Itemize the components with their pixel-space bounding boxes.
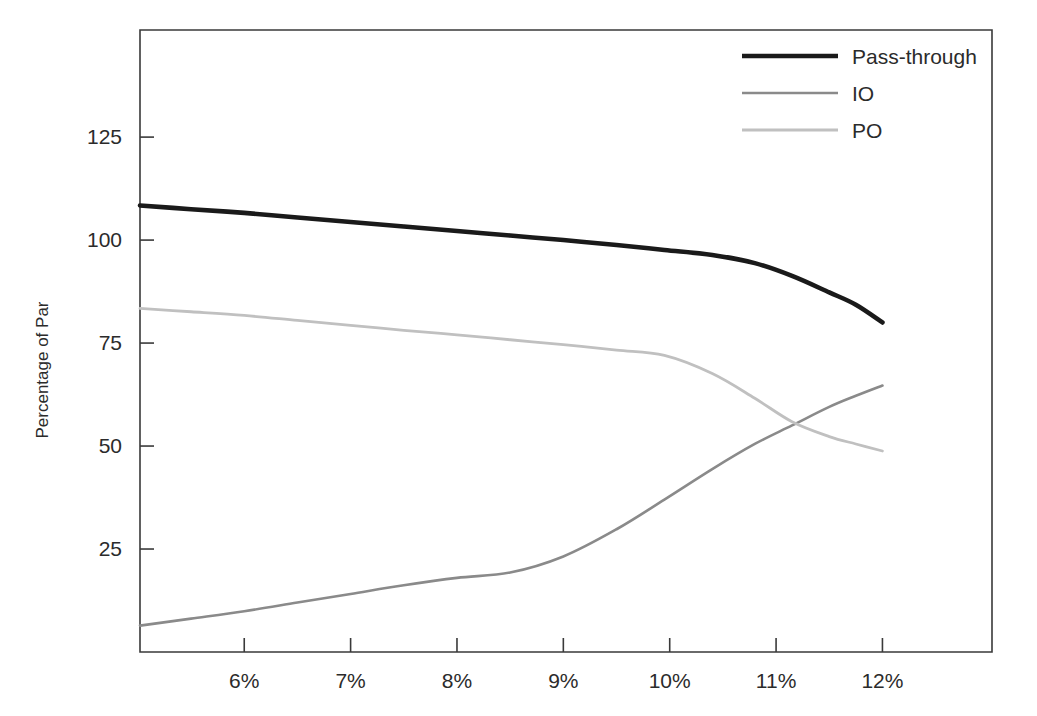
x-axis-ticks bbox=[244, 638, 882, 652]
legend-label-pass-through: Pass-through bbox=[852, 45, 977, 68]
y-tick-label: 100 bbox=[87, 228, 122, 251]
y-tick-label: 125 bbox=[87, 125, 122, 148]
y-tick-label: 75 bbox=[99, 331, 122, 354]
chart-container: 255075100125 6%7%8%9%10%11%12% Percentag… bbox=[0, 0, 1037, 716]
series-line-io bbox=[140, 385, 882, 625]
x-tick-label: 6% bbox=[229, 669, 259, 692]
x-axis-tick-labels: 6%7%8%9%10%11%12% bbox=[229, 669, 903, 692]
series-line-pass-through bbox=[140, 205, 882, 322]
x-tick-label: 10% bbox=[649, 669, 691, 692]
chart-legend: Pass-throughIOPO bbox=[742, 45, 977, 142]
y-tick-label: 25 bbox=[99, 537, 122, 560]
legend-label-io: IO bbox=[852, 82, 874, 105]
x-tick-label: 8% bbox=[442, 669, 472, 692]
y-axis-tick-labels: 255075100125 bbox=[87, 125, 122, 560]
x-tick-label: 9% bbox=[548, 669, 578, 692]
y-tick-label: 50 bbox=[99, 434, 122, 457]
legend-label-po: PO bbox=[852, 119, 882, 142]
series-line-po bbox=[140, 308, 882, 451]
x-tick-label: 11% bbox=[756, 669, 796, 692]
x-tick-label: 7% bbox=[335, 669, 365, 692]
series-lines bbox=[140, 205, 882, 625]
y-axis-title: Percentage of Par bbox=[33, 301, 52, 438]
y-axis-ticks bbox=[140, 137, 154, 549]
x-tick-label: 12% bbox=[861, 669, 903, 692]
line-chart: 255075100125 6%7%8%9%10%11%12% Percentag… bbox=[0, 0, 1037, 716]
